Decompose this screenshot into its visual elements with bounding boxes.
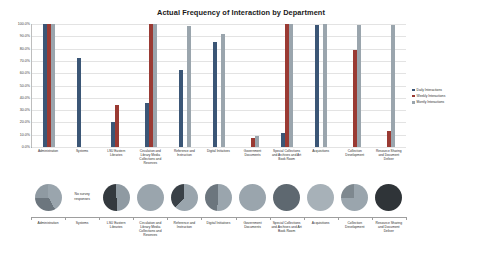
y-axis-tick-label: 20.0% bbox=[20, 120, 30, 124]
y-axis-tick-label: 60.0% bbox=[20, 71, 30, 75]
bar bbox=[323, 24, 327, 147]
bar bbox=[179, 70, 183, 147]
pie-cell bbox=[272, 178, 302, 216]
bar bbox=[213, 42, 217, 147]
axis-tick bbox=[304, 217, 305, 220]
pie-category-labels: AdministrationSystemsLSU Eastern Librari… bbox=[31, 221, 406, 237]
pie-axis-line bbox=[31, 217, 406, 218]
legend-swatch-icon bbox=[412, 101, 415, 104]
pie-cell bbox=[135, 178, 165, 216]
axis-tick bbox=[236, 217, 237, 220]
pie-category-label: Reference and Instruction bbox=[168, 221, 200, 237]
pie-cell bbox=[238, 178, 268, 216]
axis-tick bbox=[31, 217, 32, 220]
pie-cell: No survey responses bbox=[67, 178, 97, 216]
bar bbox=[153, 24, 157, 147]
x-axis-label: Administration bbox=[33, 150, 63, 176]
legend-label: Daily Interactions bbox=[417, 88, 442, 92]
pie-container: No survey responses bbox=[31, 178, 406, 216]
pie bbox=[375, 184, 402, 211]
bar-group bbox=[247, 24, 259, 147]
pie bbox=[273, 184, 300, 211]
y-axis-tick-label: 80.0% bbox=[20, 47, 30, 51]
legend-label: Weekly Interactions bbox=[417, 94, 446, 98]
bar bbox=[391, 25, 395, 147]
pie bbox=[103, 184, 130, 211]
pie-category-label: Acquisitions bbox=[305, 221, 337, 237]
bar-group bbox=[349, 24, 361, 147]
axis-tick bbox=[167, 217, 168, 220]
legend-item: Weekly Interactions bbox=[412, 94, 445, 98]
pie bbox=[137, 184, 164, 211]
bar bbox=[221, 34, 225, 147]
x-axis-label: Acquisitions bbox=[306, 150, 336, 176]
pie-category-label: Digital Initiatives bbox=[202, 221, 234, 237]
axis-tick bbox=[133, 217, 134, 220]
pie-category-label: Special Collections and Archives and Art… bbox=[271, 221, 303, 237]
bar-group bbox=[111, 24, 123, 147]
pie-cell bbox=[306, 178, 336, 216]
pie-category-label: Systems bbox=[66, 221, 98, 237]
x-axis-label: Special Collections and Archives and Art… bbox=[272, 150, 302, 176]
x-axis-label: LSU Eastern Libraries bbox=[101, 150, 131, 176]
bar-group bbox=[145, 24, 157, 147]
x-axis-label: Systems bbox=[67, 150, 97, 176]
bar bbox=[315, 25, 319, 147]
pie bbox=[341, 184, 368, 211]
pie-cell bbox=[101, 178, 131, 216]
pie-chart-row: No survey responses AdministrationSystem… bbox=[0, 176, 482, 261]
pie-category-label: Administration bbox=[32, 221, 64, 237]
pie bbox=[239, 184, 266, 211]
bar-group bbox=[43, 24, 55, 147]
pie-category-label: Collection Development bbox=[339, 221, 371, 237]
bar-group bbox=[281, 24, 293, 147]
legend-swatch-icon bbox=[412, 95, 415, 98]
bar bbox=[51, 24, 55, 147]
bar bbox=[187, 26, 191, 147]
bar-group bbox=[77, 24, 89, 147]
axis-tick bbox=[406, 217, 407, 220]
y-axis-tick-label: 40.0% bbox=[20, 96, 30, 100]
pie-cell bbox=[340, 178, 370, 216]
bar-group bbox=[383, 24, 395, 147]
legend-label: Montly Interactions bbox=[417, 100, 445, 104]
pie bbox=[171, 184, 198, 211]
axis-tick bbox=[65, 217, 66, 220]
x-axis-label: Circulation and Library Media Collection… bbox=[135, 150, 165, 176]
pie-cell bbox=[203, 178, 233, 216]
bar-chart: Actual Frequency of Interaction by Depar… bbox=[0, 0, 482, 176]
pie bbox=[205, 184, 232, 211]
x-axis-label: Reference and Instruction bbox=[169, 150, 199, 176]
bar bbox=[357, 25, 361, 147]
axis-tick bbox=[201, 217, 202, 220]
pie-category-label: LSU Eastern Libraries bbox=[100, 221, 132, 237]
bar bbox=[255, 136, 259, 147]
bar bbox=[289, 24, 293, 147]
y-axis-tick-label: 0.0% bbox=[22, 145, 30, 149]
legend-swatch-icon bbox=[412, 89, 415, 92]
chart-title: Actual Frequency of Interaction by Depar… bbox=[0, 8, 482, 17]
legend-item: Montly Interactions bbox=[412, 100, 445, 104]
y-axis-tick-label: 10.0% bbox=[20, 133, 30, 137]
x-axis-label: Government Documents bbox=[238, 150, 268, 176]
bar-chart-legend: Daily InteractionsWeekly InteractionsMon… bbox=[412, 88, 445, 107]
no-survey-note: No survey responses bbox=[67, 192, 97, 201]
gridline bbox=[32, 147, 406, 148]
bar-group bbox=[315, 24, 327, 147]
bar-plot-area: 100.0%90.0%80.0%70.0%60.0%50.0%40.0%30.0… bbox=[31, 24, 406, 148]
bar bbox=[77, 58, 81, 147]
x-axis-label: Resource Sharing and Document Deliver bbox=[374, 150, 404, 176]
legend-item: Daily Interactions bbox=[412, 88, 445, 92]
axis-tick bbox=[338, 217, 339, 220]
pie bbox=[35, 184, 62, 211]
axis-tick bbox=[99, 217, 100, 220]
x-axis-label: Digital Initiatives bbox=[203, 150, 233, 176]
pie-category-label: Circulation and Library Media Collection… bbox=[134, 221, 166, 237]
y-axis-tick-label: 30.0% bbox=[20, 108, 30, 112]
y-axis-tick-label: 90.0% bbox=[20, 34, 30, 38]
y-axis-tick-label: 50.0% bbox=[20, 84, 30, 88]
pie-cell bbox=[33, 178, 63, 216]
bar-group bbox=[213, 24, 225, 147]
pie-cell bbox=[169, 178, 199, 216]
bar bbox=[115, 105, 119, 147]
